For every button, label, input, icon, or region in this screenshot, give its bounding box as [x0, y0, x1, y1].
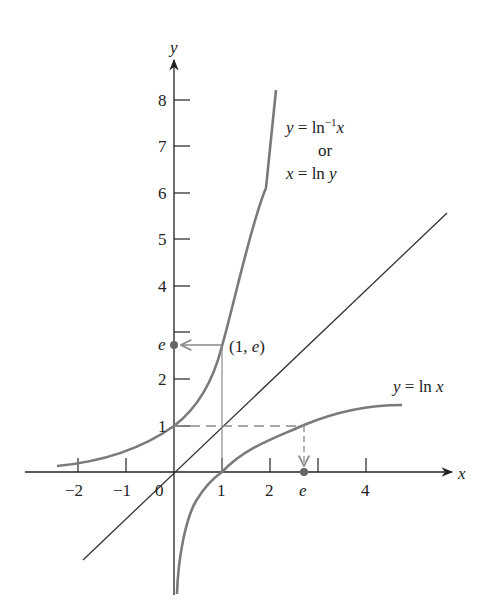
e-point-y: [170, 341, 178, 349]
x-tick-label: −2: [65, 481, 83, 500]
svg-text:x = ln y: x = ln y: [285, 164, 337, 183]
svg-text:or: or: [318, 141, 333, 160]
point-label: (1, e): [229, 337, 265, 356]
origin-label: 0: [155, 481, 164, 500]
y-tick-label: 5: [158, 230, 167, 249]
y-tick-label: 4: [158, 277, 167, 296]
svg-text:y = ln−1x: y = ln−1x: [284, 116, 345, 137]
x-tick-label: 2: [265, 481, 274, 500]
y-tick-label: 2: [158, 370, 167, 389]
y-tick-label: 7: [158, 137, 167, 156]
e-point-x: [300, 468, 308, 476]
ln-curve-label: y = ln x: [391, 377, 444, 396]
y-tick-label: 8: [158, 91, 167, 110]
y-axis-label: y: [168, 38, 178, 57]
x-tick-label: 4: [361, 481, 370, 500]
x-tick-label: −1: [113, 481, 131, 500]
exp-curve: [57, 90, 276, 466]
x-tick-label-e: e: [299, 481, 307, 500]
y-tick-label: 1: [158, 417, 167, 436]
y-tick-label: 6: [158, 184, 167, 203]
chart-canvas: x y −2 −1 0 1 2 e 4 1 2 e 4 5 6 7 8 y = …: [0, 0, 490, 608]
x-tick-label: 1: [217, 481, 226, 500]
x-axis-label: x: [457, 464, 466, 483]
exp-curve-label: y = ln−1x or x = ln y: [284, 116, 345, 183]
y-tick-label-e: e: [158, 335, 166, 354]
y-ticks: [174, 100, 190, 426]
